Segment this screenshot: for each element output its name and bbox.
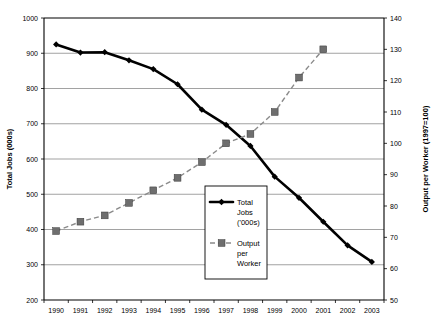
legend-label-total-jobs: Jobs [237, 208, 253, 217]
legend-label-output-per-worker: Worker [237, 259, 262, 268]
right-axis-title: Output per Worker (1997=100) [421, 105, 430, 212]
x-tick-label: 1992 [97, 307, 113, 314]
data-point-output-per-worker [174, 174, 181, 181]
right-tick-label: 120 [390, 77, 402, 84]
data-point-output-per-worker [247, 131, 254, 138]
left-tick-label: 1000 [22, 15, 38, 22]
right-tick-label: 90 [390, 171, 398, 178]
chart-container: 2003004005006007008009001000 50607080901… [0, 0, 437, 322]
legend-label-total-jobs: ('000s) [237, 218, 260, 227]
left-tick-label: 500 [26, 191, 38, 198]
data-point-output-per-worker [101, 212, 108, 219]
right-tick-label: 70 [390, 234, 398, 241]
left-tick-label: 600 [26, 156, 38, 163]
x-tick-label: 2000 [291, 307, 307, 314]
data-point-output-per-worker [53, 228, 60, 235]
left-tick-label: 900 [26, 50, 38, 57]
x-tick-label: 2002 [340, 307, 356, 314]
legend-marker-output-per-worker [218, 240, 225, 247]
left-tick-label: 300 [26, 261, 38, 268]
right-tick-label: 140 [390, 15, 402, 22]
data-point-output-per-worker [77, 218, 84, 225]
chart-legend: TotalJobs('000s)OutputperWorker [205, 186, 267, 279]
data-point-output-per-worker [320, 46, 327, 53]
right-tick-label: 130 [390, 46, 402, 53]
data-point-output-per-worker [223, 140, 230, 147]
two-axis-line-chart: 2003004005006007008009001000 50607080901… [0, 0, 437, 322]
x-tick-label: 1990 [48, 307, 64, 314]
right-tick-label: 110 [390, 109, 401, 116]
data-point-output-per-worker [126, 199, 133, 206]
left-axis-title: Total Jobs (000s) [5, 128, 14, 189]
data-point-output-per-worker [271, 109, 278, 116]
data-point-output-per-worker [198, 159, 205, 166]
left-tick-label: 800 [26, 85, 38, 92]
x-tick-label: 1991 [73, 307, 89, 314]
right-tick-label: 80 [390, 203, 398, 210]
left-tick-label: 400 [26, 226, 38, 233]
legend-label-output-per-worker: Output [237, 239, 260, 248]
x-tick-label: 1993 [121, 307, 137, 314]
x-tick-label: 2003 [364, 307, 380, 314]
left-tick-label: 200 [26, 297, 38, 304]
right-tick-label: 60 [390, 265, 398, 272]
data-point-output-per-worker [150, 187, 157, 194]
x-tick-label: 2001 [315, 307, 331, 314]
x-tick-label: 1998 [243, 307, 259, 314]
legend-label-output-per-worker: per [237, 249, 248, 258]
x-tick-label: 1994 [145, 307, 161, 314]
x-tick-label: 1997 [218, 307, 234, 314]
right-tick-label: 50 [390, 297, 398, 304]
legend-label-total-jobs: Total [237, 198, 253, 207]
data-point-output-per-worker [296, 74, 303, 81]
x-tick-label: 1999 [267, 307, 283, 314]
x-tick-label: 1996 [194, 307, 210, 314]
left-tick-label: 700 [26, 120, 38, 127]
right-tick-label: 100 [390, 140, 402, 147]
x-tick-label: 1995 [170, 307, 186, 314]
